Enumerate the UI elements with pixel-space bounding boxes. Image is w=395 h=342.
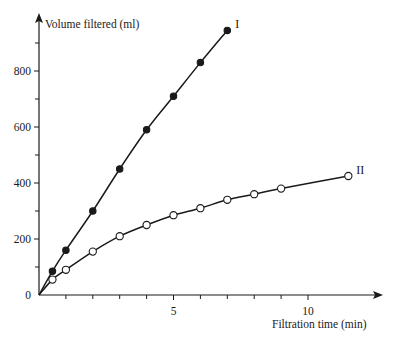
series-line-i [39, 30, 227, 295]
filled-circle-marker-icon [49, 268, 55, 274]
x-tick-label: 5 [171, 305, 177, 317]
open-circle-marker-icon [143, 221, 150, 228]
open-circle-marker-icon [62, 266, 69, 273]
series-line-ii [39, 176, 348, 295]
filled-circle-marker-icon [197, 59, 203, 65]
filled-circle-marker-icon [143, 127, 149, 133]
y-tick-label: 200 [14, 233, 32, 245]
open-circle-marker-icon [170, 212, 177, 219]
y-tick-label: 0 [25, 289, 31, 301]
open-circle-marker-icon [49, 276, 56, 283]
open-circle-marker-icon [224, 196, 231, 203]
filtration-chart: 5100200400600800 III Volume filtered (ml… [0, 0, 395, 342]
open-circle-marker-icon [345, 172, 352, 179]
x-axis-label: Filtration time (min) [272, 318, 367, 331]
y-axis-label: Volume filtered (ml) [45, 18, 139, 31]
series-label-ii: II [356, 163, 364, 177]
chart-canvas: 5100200400600800 III Volume filtered (ml… [0, 0, 395, 342]
series-label-i: I [235, 17, 239, 31]
open-circle-marker-icon [197, 205, 204, 212]
filled-circle-marker-icon [90, 208, 96, 214]
filled-circle-marker-icon [224, 27, 230, 33]
series-layer: III [39, 17, 364, 295]
open-circle-marker-icon [278, 185, 285, 192]
filled-circle-marker-icon [63, 247, 69, 253]
open-circle-marker-icon [251, 191, 258, 198]
open-circle-marker-icon [89, 248, 96, 255]
y-tick-label: 800 [14, 65, 32, 77]
filled-circle-marker-icon [170, 93, 176, 99]
open-circle-marker-icon [116, 233, 123, 240]
series-ii: II [39, 163, 364, 295]
x-tick-label: 10 [302, 305, 314, 317]
filled-circle-marker-icon [117, 166, 123, 172]
y-tick-label: 400 [14, 177, 32, 189]
series-i: I [39, 17, 239, 295]
axis-ticks: 5100200400600800 [14, 43, 314, 317]
y-tick-label: 600 [14, 121, 32, 133]
